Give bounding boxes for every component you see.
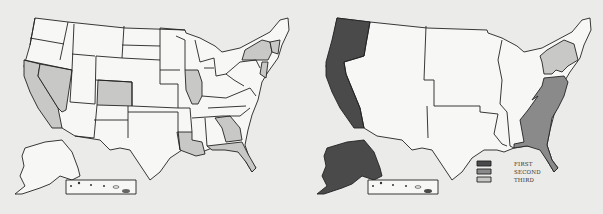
legend-swatch-first bbox=[477, 161, 491, 166]
left-us-states-map bbox=[15, 18, 289, 194]
legend-label-second: SECOND bbox=[514, 169, 541, 175]
legend-swatch-second bbox=[477, 169, 491, 174]
right-us-regions-map bbox=[317, 18, 591, 194]
state-new-york bbox=[242, 40, 272, 60]
legend-label-third: THIRD bbox=[514, 177, 535, 183]
legend-label-first: FIRST bbox=[514, 161, 533, 167]
legend-swatch-third bbox=[477, 177, 491, 182]
map-canvas: FIRST SECOND THIRD bbox=[0, 0, 603, 214]
state-florida bbox=[207, 142, 256, 172]
state-colorado bbox=[97, 80, 132, 106]
legend: FIRST SECOND THIRD bbox=[477, 161, 541, 183]
